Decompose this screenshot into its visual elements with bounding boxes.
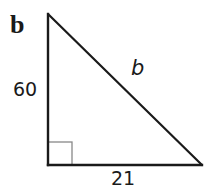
horizontal-leg-label: 21 <box>111 169 135 188</box>
right-angle-marker <box>48 142 72 165</box>
problem-label: b <box>10 12 24 38</box>
vertical-leg-label: 60 <box>13 80 37 99</box>
diagram-canvas: b 60 b 21 <box>0 0 208 190</box>
hypotenuse-label: b <box>131 58 144 79</box>
